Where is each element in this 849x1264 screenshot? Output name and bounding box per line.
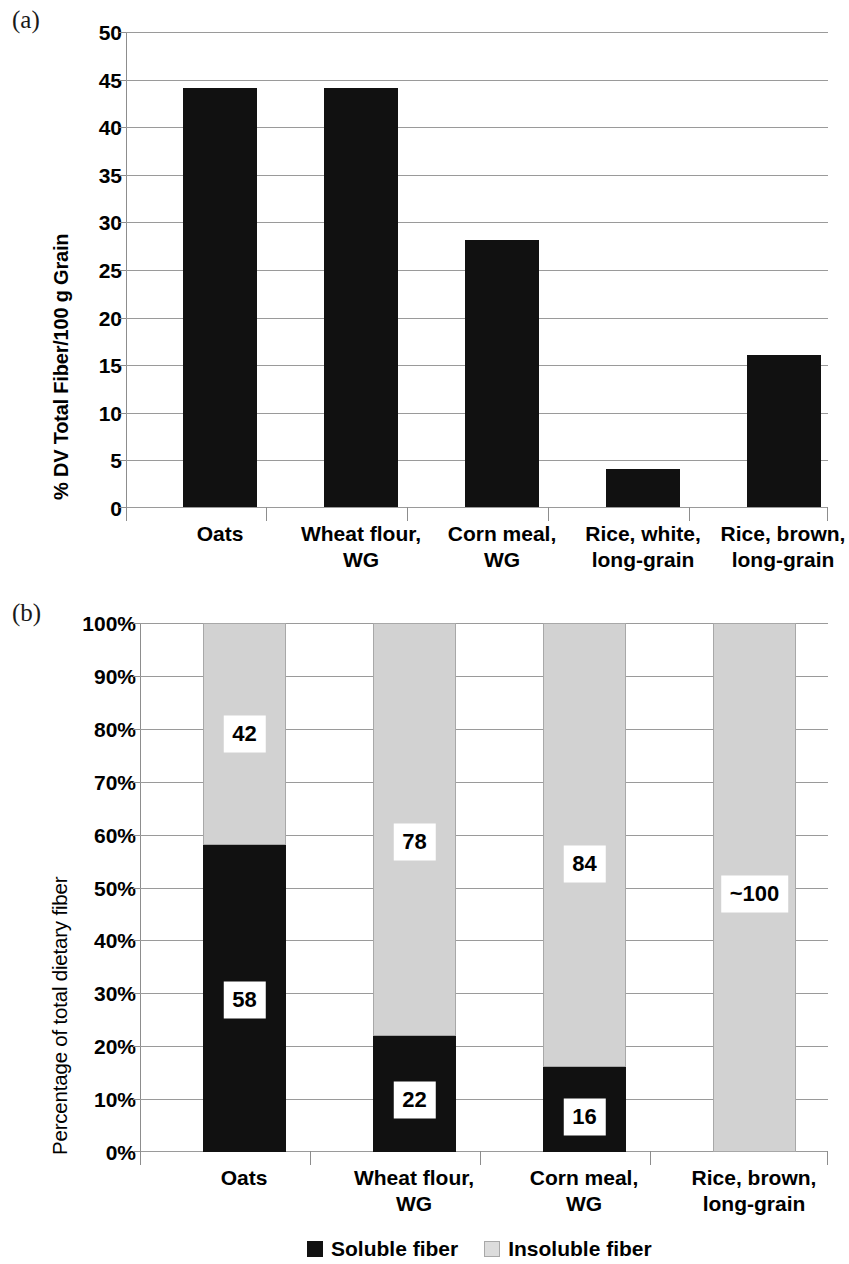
data-label-insoluble-rice-brown-long-grain: ~100 bbox=[721, 876, 789, 913]
chart-b-legend: Soluble fiber Insoluble fiber bbox=[307, 1238, 652, 1259]
x-category-label-rice-white: Rice, white, long-grain bbox=[568, 521, 718, 572]
y-tick-label: 10% bbox=[94, 1089, 136, 1110]
y-tick-label: 0% bbox=[106, 1142, 136, 1163]
chart-a-y-tick-labels: 50 45 40 35 30 25 20 15 10 5 0 bbox=[60, 0, 122, 540]
bar-corn-meal-wg bbox=[465, 240, 539, 507]
x-axis-divider bbox=[650, 1151, 651, 1165]
y-tick-label: 30% bbox=[94, 983, 136, 1004]
chart-b-plot-area: 42 58 78 22 84 16 ~100 bbox=[140, 623, 828, 1152]
x-axis-divider bbox=[480, 1151, 481, 1165]
bar-wheat-flour-wg bbox=[324, 88, 398, 507]
x-category-label-wheat-flour: Wheat flour, WG bbox=[339, 1165, 489, 1216]
legend-swatch-insoluble-icon bbox=[484, 1241, 500, 1257]
y-tick-label: 20% bbox=[94, 1036, 136, 1057]
data-label-soluble-corn-meal-wg: 16 bbox=[563, 1099, 605, 1136]
x-category-label-oats: Oats bbox=[169, 1165, 319, 1191]
x-axis-divider bbox=[827, 1151, 828, 1165]
gridline bbox=[126, 32, 828, 33]
data-label-insoluble-oats: 42 bbox=[223, 716, 265, 753]
x-category-label-corn-meal: Corn meal, WG bbox=[432, 521, 572, 572]
bar-rice-brown-long-grain bbox=[747, 355, 821, 507]
panel-a-label: (a) bbox=[12, 6, 40, 34]
chart-a-plot-area bbox=[126, 32, 828, 508]
x-axis-divider bbox=[689, 507, 690, 521]
y-tick-label: 80% bbox=[94, 718, 136, 739]
panel-b: (b) Percentage of total dietary fiber 10… bbox=[0, 595, 828, 1264]
x-category-label-rice-brown: Rice, brown, long-grain bbox=[674, 1165, 834, 1216]
y-tick-label: 40% bbox=[94, 930, 136, 951]
data-label-soluble-wheat-flour-wg: 22 bbox=[393, 1082, 435, 1119]
legend-label-insoluble-fiber: Insoluble fiber bbox=[508, 1238, 652, 1259]
legend-label-soluble-fiber: Soluble fiber bbox=[331, 1238, 458, 1259]
panel-a: (a) % DV Total Fiber/100 g Grain 50 45 4… bbox=[0, 0, 828, 595]
x-category-label-oats: Oats bbox=[150, 521, 290, 547]
legend-swatch-soluble-icon bbox=[307, 1241, 323, 1257]
data-label-soluble-oats: 58 bbox=[223, 982, 265, 1019]
y-tick-label: 0 bbox=[110, 498, 122, 519]
x-axis-divider bbox=[310, 1151, 311, 1165]
gridline bbox=[126, 80, 828, 81]
x-axis-divider bbox=[548, 507, 549, 521]
x-axis-divider bbox=[140, 1151, 141, 1165]
legend-item-soluble-fiber: Soluble fiber bbox=[307, 1238, 458, 1259]
y-tick-label: 90% bbox=[94, 665, 136, 686]
y-tick-label: 60% bbox=[94, 824, 136, 845]
x-category-label-rice-brown: Rice, brown, long-grain bbox=[708, 521, 849, 572]
x-axis-divider bbox=[126, 507, 127, 521]
data-label-insoluble-wheat-flour-wg: 78 bbox=[393, 824, 435, 861]
chart-b-y-tick-labels: 100% 90% 80% 70% 60% 50% 40% 30% 20% 10%… bbox=[58, 595, 136, 1175]
x-axis-divider bbox=[266, 507, 267, 521]
x-axis-divider bbox=[407, 507, 408, 521]
bar-rice-white-long-grain bbox=[606, 469, 680, 507]
x-category-label-corn-meal: Corn meal, WG bbox=[509, 1165, 659, 1216]
gridline bbox=[126, 507, 828, 508]
legend-item-insoluble-fiber: Insoluble fiber bbox=[484, 1238, 652, 1259]
panel-b-label: (b) bbox=[12, 599, 41, 627]
y-tick-label: 100% bbox=[82, 613, 136, 634]
bar-oats bbox=[183, 88, 257, 507]
x-category-label-wheat-flour: Wheat flour, WG bbox=[291, 521, 431, 572]
x-axis-divider bbox=[827, 507, 828, 521]
y-tick-label: 70% bbox=[94, 771, 136, 792]
data-label-insoluble-corn-meal-wg: 84 bbox=[563, 846, 605, 883]
y-tick-label: 50% bbox=[94, 877, 136, 898]
